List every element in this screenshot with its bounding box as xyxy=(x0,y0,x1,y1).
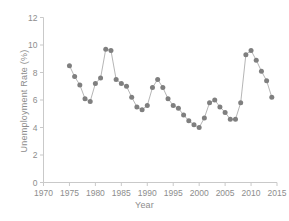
data-point xyxy=(197,125,202,130)
data-point xyxy=(88,99,93,104)
data-point xyxy=(233,117,238,122)
x-tick-label: 2015 xyxy=(268,188,287,198)
data-point xyxy=(186,118,191,123)
data-point xyxy=(108,48,113,53)
y-axis-title: Unemployment Rate (%) xyxy=(19,31,29,171)
data-point xyxy=(67,63,72,68)
x-axis: 1970197519801985199019952000200520102015 xyxy=(34,183,287,198)
y-tick-label: 2 xyxy=(33,150,38,160)
y-tick-label: 8 xyxy=(33,68,38,78)
data-point xyxy=(103,47,108,52)
data-point xyxy=(83,96,88,101)
plot-area: 024681012 197019751980198519901995200020… xyxy=(0,0,289,221)
x-tick-label: 1995 xyxy=(164,188,183,198)
data-point xyxy=(150,85,155,90)
data-point xyxy=(212,98,217,103)
data-point xyxy=(72,74,77,79)
data-point xyxy=(249,48,254,53)
data-point xyxy=(155,77,160,82)
x-tick-label: 1990 xyxy=(138,188,157,198)
data-point xyxy=(160,85,165,90)
y-tick-label: 10 xyxy=(28,40,38,50)
x-axis-title: Year xyxy=(0,200,289,210)
data-point xyxy=(228,117,233,122)
data-point xyxy=(129,95,134,100)
unemployment-series-line xyxy=(69,49,271,127)
data-point xyxy=(145,103,150,108)
data-point xyxy=(259,69,264,74)
x-tick-label: 1975 xyxy=(60,188,79,198)
data-point xyxy=(98,76,103,81)
x-tick-label: 2005 xyxy=(216,188,235,198)
x-tick-label: 2000 xyxy=(190,188,209,198)
data-point xyxy=(223,110,228,115)
y-tick-label: 6 xyxy=(33,95,38,105)
data-point xyxy=(119,81,124,86)
x-tick-label: 1985 xyxy=(112,188,131,198)
unemployment-rate-chart: 024681012 197019751980198519901995200020… xyxy=(0,0,289,221)
data-point xyxy=(93,81,98,86)
x-tick-label: 1970 xyxy=(34,188,53,198)
data-point xyxy=(207,100,212,105)
x-tick-label: 2010 xyxy=(242,188,261,198)
data-point xyxy=(166,96,171,101)
data-point xyxy=(171,103,176,108)
unemployment-series-points xyxy=(67,47,274,130)
data-point xyxy=(202,115,207,120)
data-point xyxy=(217,104,222,109)
data-point xyxy=(243,52,248,57)
data-point xyxy=(238,100,243,105)
data-point xyxy=(134,104,139,109)
y-tick-label: 4 xyxy=(33,123,38,133)
y-tick-label: 0 xyxy=(33,178,38,188)
y-tick-label: 12 xyxy=(28,13,38,23)
data-point xyxy=(114,77,119,82)
data-point xyxy=(254,58,259,63)
data-point xyxy=(140,107,145,112)
data-point xyxy=(264,78,269,83)
y-axis: 024681012 xyxy=(28,13,43,188)
data-point xyxy=(269,95,274,100)
data-point xyxy=(176,106,181,111)
data-point xyxy=(124,84,129,89)
x-tick-label: 1980 xyxy=(86,188,105,198)
data-point xyxy=(191,122,196,127)
data-point xyxy=(77,82,82,87)
data-point xyxy=(181,113,186,118)
